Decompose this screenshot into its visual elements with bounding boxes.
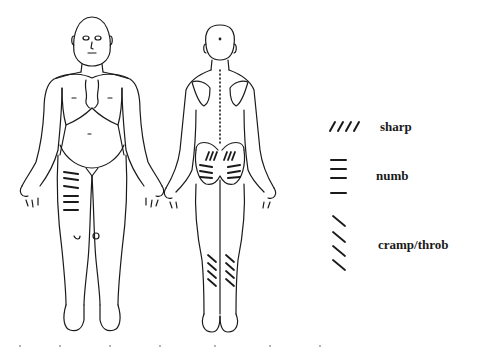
legend-label-cramp: cramp/throb <box>378 237 449 253</box>
scan-noise <box>19 345 321 347</box>
legend-label-numb: numb <box>376 168 409 184</box>
numb-marks-front-thigh <box>64 172 78 210</box>
legend-numb-symbol <box>331 160 346 193</box>
legend-cramp-symbol <box>333 216 345 270</box>
front-figure <box>20 17 163 331</box>
legend-sharp-symbol <box>330 122 359 131</box>
back-figure <box>164 25 275 332</box>
legend-label-sharp: sharp <box>380 119 412 135</box>
sharp-marks-lower-back <box>206 152 235 160</box>
cramp-marks-calves <box>208 255 234 286</box>
body-pain-diagram <box>0 0 481 354</box>
